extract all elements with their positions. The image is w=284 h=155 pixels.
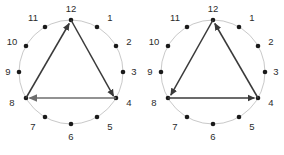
hour-dot-11 [185,25,190,30]
hour-dot-1 [237,25,242,30]
hour-label-7: 7 [172,121,177,132]
hour-label-11: 11 [170,12,180,23]
hour-dot-7 [185,115,190,120]
hour-label-3: 3 [273,66,278,77]
hour-dot-3 [263,70,268,75]
hour-label-5: 5 [249,121,254,132]
hour-label-7: 7 [30,121,35,132]
hour-dot-6 [69,122,74,127]
hour-dot-11 [43,25,48,30]
hour-dot-5 [95,115,100,120]
hour-label-12: 12 [208,3,219,14]
hour-label-10: 10 [7,36,18,47]
hour-label-8: 8 [9,97,14,108]
hour-dot-1 [95,25,100,30]
hour-label-2: 2 [268,36,273,47]
clock-face-circle [19,20,123,124]
edge-4-to-12 [215,24,258,99]
cycle-edges-group [168,20,258,98]
hour-label-9: 9 [5,66,10,77]
hour-label-12: 12 [66,3,77,14]
hour-dots-group [17,18,126,127]
hour-dot-6 [211,122,216,127]
hour-label-6: 6 [210,131,215,142]
hour-dot-10 [24,44,29,49]
hour-dot-10 [166,44,171,49]
hour-dots-group [159,18,268,127]
hour-dot-9 [159,70,164,75]
hour-dot-3 [121,70,126,75]
hour-label-3: 3 [131,66,136,77]
edge-12-to-8 [171,20,213,95]
hour-label-1: 1 [107,12,112,23]
hour-label-2: 2 [126,36,131,47]
hour-label-4: 4 [126,97,131,108]
hour-dot-2 [256,44,261,49]
clock-face-circle [161,20,265,124]
clock-figure-pair: 12 1 2 3 4 5 6 7 8 9 10 11 [0,0,284,155]
clock-diagram-clockwise: 12 1 2 3 4 5 6 7 8 9 10 11 [0,0,142,155]
hour-labels-group: 12 1 2 3 4 5 6 7 8 9 10 11 [5,3,136,142]
hour-dot-5 [237,115,242,120]
hour-dot-2 [114,44,119,49]
hour-label-4: 4 [268,97,273,108]
edge-8-to-12 [26,24,69,99]
edge-12-to-4 [71,20,114,96]
hour-labels-group: 12 1 2 3 4 5 6 7 8 9 10 11 [147,3,278,142]
hour-dot-9 [17,70,22,75]
hour-label-9: 9 [147,66,152,77]
hour-label-11: 11 [28,12,38,23]
hour-label-8: 8 [151,97,156,108]
hour-label-10: 10 [149,36,160,47]
hour-label-5: 5 [107,121,112,132]
cycle-edges-group [26,20,116,98]
hour-label-1: 1 [249,12,254,23]
hour-dot-7 [43,115,48,120]
clock-diagram-counterclockwise: 12 1 2 3 4 5 6 7 8 9 10 11 [142,0,284,155]
hour-label-6: 6 [68,131,73,142]
